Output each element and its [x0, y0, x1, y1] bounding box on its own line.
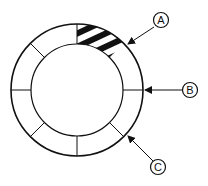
callout-b: B [145, 83, 198, 98]
callout-b-label: B [186, 84, 193, 96]
inner-ring [31, 44, 123, 136]
ring-diagram: A B C [0, 0, 208, 186]
callout-c-label: C [154, 161, 162, 173]
callout-a-label: A [157, 14, 165, 26]
callout-c: C [128, 136, 166, 175]
callout-a: A [128, 13, 169, 45]
